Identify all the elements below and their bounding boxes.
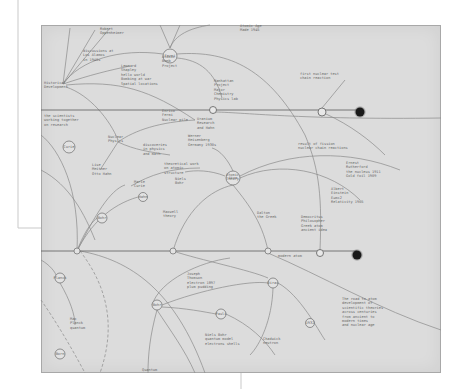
node-label: Pauli	[216, 312, 227, 316]
connector	[63, 28, 70, 84]
dashed-connector	[41, 300, 85, 373]
connector	[77, 197, 138, 251]
connector	[157, 310, 195, 373]
upper-left-junction	[210, 107, 217, 114]
connector	[212, 148, 233, 171]
handwritten-label: RobertOppenheimer	[100, 27, 125, 35]
node-label: Dirac	[268, 281, 279, 285]
connector	[185, 171, 225, 176]
connector	[177, 54, 321, 250]
connector	[118, 120, 195, 142]
upper-terminal-node	[356, 108, 365, 117]
connector	[80, 251, 205, 373]
handwritten-label: ErnestRutherfordthe nucleus 1911Gold foi…	[346, 161, 381, 178]
node-label: Bohr	[98, 216, 107, 220]
handwritten-label: UraniumResearchand Hahn	[197, 117, 214, 130]
node-label: Born	[56, 352, 65, 356]
diagram-edges	[41, 25, 441, 373]
handwritten-labels: RobertOppenheimerdiscussions atLos Alamo…	[44, 24, 383, 372]
lower-junction-node	[317, 250, 324, 257]
handwritten-label: MarieCurie	[134, 180, 145, 188]
connector	[100, 142, 118, 170]
node-label: Hahn	[139, 195, 148, 199]
dashed-connector	[80, 251, 108, 373]
connector	[226, 314, 275, 355]
handwritten-label: NuclearPhysics	[108, 135, 124, 143]
handwritten-label: Niels Bohrquantum modelelectrons shells	[205, 333, 240, 346]
handwritten-label: AlbertEinsteinE=mc2Relativity 1905	[331, 187, 363, 204]
node-labels: FermiAtomCurieBohrHahnPlanckBornBohrPaul…	[54, 54, 315, 356]
lower-terminal-node	[353, 251, 362, 260]
connector	[322, 80, 345, 108]
connector	[41, 260, 56, 275]
connector	[160, 25, 170, 48]
handwritten-label: EnricoFermiNuclear pile	[162, 109, 188, 122]
connector	[162, 307, 216, 314]
handwritten-label: HistoricalDevelopment	[44, 81, 68, 89]
connector	[63, 66, 130, 84]
connector	[213, 112, 441, 118]
handwritten-label: modern atom	[278, 254, 302, 258]
connector	[170, 25, 210, 48]
handwritten-label: Maxwelltheory	[163, 210, 178, 218]
node-label: Bohr	[153, 303, 162, 307]
node-label: 1932	[306, 321, 315, 325]
node-timeline-right	[265, 248, 271, 254]
connector	[278, 283, 325, 340]
handwritten-label: NielsBohr	[175, 177, 186, 185]
handwritten-label: first nuclear testchain reaction	[300, 72, 339, 80]
diagram-nodes	[55, 49, 315, 359]
node-timeline-left	[74, 248, 80, 254]
node-label: Atom	[229, 176, 238, 180]
handwritten-label: Daltonthe Greek	[257, 211, 277, 219]
handwritten-label: LiseMeitnerOtto Hahn	[92, 163, 111, 176]
handwritten-label: WernerHeisenbergGermany 1930s	[188, 134, 216, 147]
handwritten-label: discussions atLos Alamosin 1940s	[83, 49, 113, 62]
handwritten-label: ManhattanProjectMajorChemistryPhysics la…	[214, 79, 238, 101]
handwritten-label: DemocritusPhilosopherGreek atomancient i…	[301, 215, 327, 232]
node-label: Fermi	[165, 54, 176, 58]
connector	[66, 84, 195, 120]
connector	[148, 310, 157, 373]
handwritten-label: Quantum	[142, 368, 157, 372]
node-timeline-mid	[170, 248, 176, 254]
connector	[162, 282, 268, 305]
handwritten-label: The road to atomdevelopment ofscientific…	[342, 297, 383, 327]
handwritten-label: the scientistsworking togetheron researc…	[44, 114, 79, 127]
handwritten-label: MaxPlanckquantum	[70, 317, 85, 330]
handwritten-label: result of fissionnuclear chain reactions	[298, 142, 348, 150]
handwritten-label: Chadwickneutron	[263, 337, 281, 345]
hand-drawn-diagram: RobertOppenheimerdiscussions atLos Alamo…	[0, 0, 464, 389]
node-label: Planck	[54, 276, 68, 280]
handwritten-label: Atomic AgeMade 1945	[240, 24, 262, 32]
connector	[173, 185, 233, 251]
handwritten-label: JosephThomsonelectron 1897plum pudding	[187, 272, 215, 289]
handwritten-label: LeonardShapleyhello worldBombing at warS…	[121, 64, 158, 86]
upper-junction-node	[318, 108, 326, 116]
mounting-frame-lines	[18, 0, 241, 389]
node-label: Curie	[64, 145, 75, 149]
